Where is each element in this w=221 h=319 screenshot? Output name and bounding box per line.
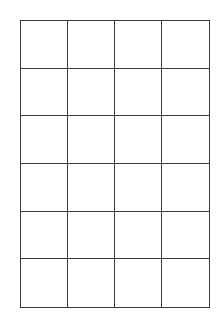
grid-cell	[68, 164, 115, 212]
grid-cell	[68, 69, 115, 117]
grid-cell	[21, 116, 68, 164]
grid-cell	[115, 69, 162, 117]
grid-cell	[115, 21, 162, 69]
grid-cell	[162, 212, 209, 260]
grid-cell	[115, 164, 162, 212]
grid-cell	[68, 259, 115, 307]
grid-cell	[162, 21, 209, 69]
grid-cell	[162, 164, 209, 212]
grid-cell	[115, 259, 162, 307]
grid-cell	[21, 259, 68, 307]
grid-cell	[68, 21, 115, 69]
grid-table	[20, 20, 210, 308]
grid-cell	[68, 212, 115, 260]
grid-cell	[21, 21, 68, 69]
grid-cell	[115, 212, 162, 260]
grid-cell	[162, 69, 209, 117]
grid-cell	[115, 116, 162, 164]
grid-cell	[162, 259, 209, 307]
grid-cell	[21, 212, 68, 260]
grid-cell	[162, 116, 209, 164]
grid-cell	[21, 164, 68, 212]
grid-cell	[21, 69, 68, 117]
grid-cell	[68, 116, 115, 164]
